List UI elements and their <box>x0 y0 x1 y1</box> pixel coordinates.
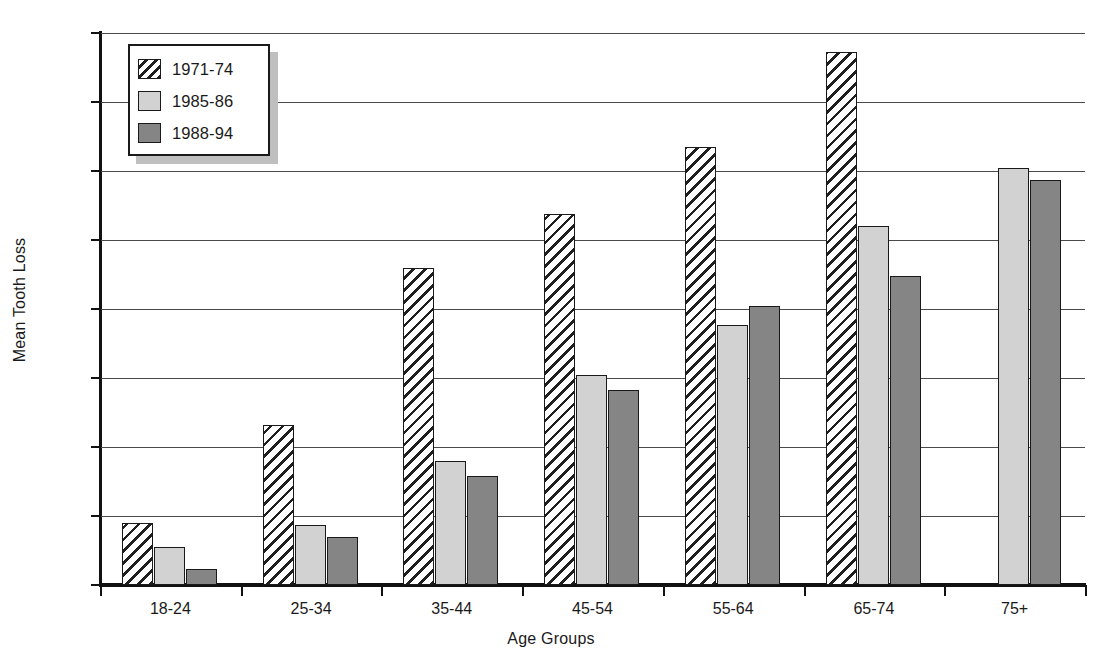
bar-group-bars <box>826 33 921 585</box>
bar <box>858 226 889 585</box>
bar <box>154 547 185 585</box>
x-axis-title-text: Age Groups <box>507 630 594 647</box>
x-axis-tick-mark <box>804 585 806 596</box>
y-axis-tick-mark <box>91 170 101 172</box>
y-axis-tick-mark <box>91 239 101 241</box>
bar-group <box>826 33 921 585</box>
bar <box>717 325 748 585</box>
bar <box>544 214 575 585</box>
bar-group <box>403 33 498 585</box>
bar <box>998 168 1029 585</box>
y-axis-tick-mark <box>91 101 101 103</box>
bar-group <box>544 33 639 585</box>
legend-swatch-icon <box>138 59 161 79</box>
bar <box>826 52 857 585</box>
bar <box>576 375 607 585</box>
chart-legend: 1971-741985-861988-94 <box>128 44 270 156</box>
y-axis-tick-mark <box>91 446 101 448</box>
x-axis-tick-label: 75+ <box>1001 600 1028 618</box>
legend-item: 1988-94 <box>138 117 260 149</box>
legend-swatch-icon <box>138 91 161 111</box>
x-axis-tick-label: 55-64 <box>713 600 754 618</box>
y-axis-title-text: Mean Tooth Loss <box>11 238 29 363</box>
bar <box>890 276 921 585</box>
x-axis-tick-mark <box>522 585 524 596</box>
y-axis-title: Mean Tooth Loss <box>0 0 40 600</box>
bar <box>403 268 434 585</box>
bar <box>327 537 358 585</box>
bar <box>263 425 294 585</box>
y-axis-tick-mark <box>91 515 101 517</box>
bar <box>685 147 716 585</box>
bar-group <box>966 33 1061 585</box>
x-axis-tick-mark <box>381 585 383 596</box>
bar <box>295 525 326 585</box>
bar <box>608 390 639 585</box>
chart-figure: Mean Tooth Loss 1971-741985-861988-94 Ag… <box>0 0 1102 666</box>
bar-group-bars <box>403 33 498 585</box>
x-axis-tick-mark <box>944 585 946 596</box>
x-axis-title: Age Groups <box>0 630 1102 648</box>
x-axis-tick-mark <box>100 585 102 596</box>
legend-item: 1971-74 <box>138 53 260 85</box>
bar <box>749 306 780 585</box>
bar <box>1030 180 1061 585</box>
x-axis-tick-label: 35-44 <box>431 600 472 618</box>
bar-group-bars <box>685 33 780 585</box>
x-axis-tick-label: 18-24 <box>150 600 191 618</box>
bar-group <box>685 33 780 585</box>
legend-label: 1971-74 <box>172 60 233 79</box>
bar <box>467 476 498 585</box>
legend-item: 1985-86 <box>138 85 260 117</box>
x-axis-tick-mark <box>1085 585 1087 596</box>
y-axis-tick-mark <box>91 377 101 379</box>
bar-group-bars <box>966 33 1061 585</box>
legend-label: 1988-94 <box>172 124 233 143</box>
x-axis-tick-mark <box>241 585 243 596</box>
bar <box>186 569 217 585</box>
legend-swatch-icon <box>138 123 161 143</box>
x-axis-tick-label: 45-54 <box>572 600 613 618</box>
bar-group-bars <box>544 33 639 585</box>
x-axis-tick-label: 65-74 <box>853 600 894 618</box>
bar <box>435 461 466 585</box>
x-axis-tick-mark <box>663 585 665 596</box>
legend-label: 1985-86 <box>172 92 233 111</box>
y-axis-tick-mark <box>91 308 101 310</box>
y-axis-tick-mark <box>91 32 101 34</box>
bar <box>122 523 153 585</box>
x-axis-tick-label: 25-34 <box>291 600 332 618</box>
